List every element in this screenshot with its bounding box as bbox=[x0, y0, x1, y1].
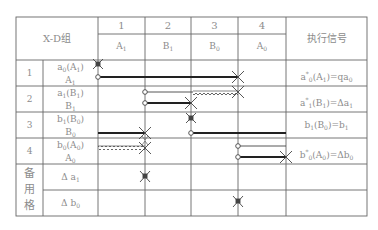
start-circle-icon bbox=[143, 101, 148, 106]
row-number: 1 bbox=[16, 68, 43, 79]
zigzag-line bbox=[193, 91, 238, 95]
column-action: A1 bbox=[98, 41, 145, 54]
start-circle-icon bbox=[236, 144, 241, 149]
column-number: 1 bbox=[98, 20, 145, 31]
column-number: 3 bbox=[191, 20, 238, 31]
column-action: B1 bbox=[145, 41, 191, 54]
row-number: 3 bbox=[16, 120, 43, 131]
row2-signal-lines bbox=[143, 86, 244, 109]
exec-signal-header: 执行信号 bbox=[286, 33, 367, 44]
zigzag-line bbox=[98, 146, 145, 150]
column-action: A0 bbox=[238, 41, 286, 54]
column-number: 2 bbox=[145, 20, 191, 31]
spare-label: 备 用 格 bbox=[16, 166, 43, 214]
exec-signal: a*0(A1)=qa0 bbox=[286, 68, 367, 85]
corner-label: X-D组 bbox=[16, 33, 98, 44]
row-signal: b0(A0) A0 bbox=[43, 140, 98, 166]
exec-signal: a*1(B1)=Δa1 bbox=[286, 94, 367, 111]
row-signal: a0(A1) A1 bbox=[43, 62, 98, 88]
start-circle-icon bbox=[143, 90, 148, 95]
start-circle-icon bbox=[189, 131, 194, 136]
row-signal: b1(B0) B0 bbox=[43, 114, 98, 140]
exec-signal: b1(B0)=b1 bbox=[286, 120, 367, 133]
row4-signal-lines bbox=[98, 142, 292, 163]
spare-item: Δ a1 bbox=[43, 172, 98, 185]
row-number: 2 bbox=[16, 94, 43, 105]
spare-item: Δ b0 bbox=[43, 198, 98, 211]
column-action: B0 bbox=[191, 41, 238, 54]
exec-signal: b*0(A0)=Δb0 bbox=[286, 146, 367, 163]
spare-marks bbox=[140, 171, 243, 207]
row3-signal-lines bbox=[98, 113, 286, 145]
start-circle-icon bbox=[236, 155, 241, 160]
row-number: 4 bbox=[16, 146, 43, 157]
column-number: 4 bbox=[238, 20, 286, 31]
x-d-diagram: X-D组 执行信号 1 2 3 4 A1 B1 B0 A0 1 2 3 4 a0… bbox=[0, 0, 378, 230]
row-signal: a1(B1) B1 bbox=[43, 88, 98, 114]
row1-signal-lines bbox=[93, 59, 244, 83]
